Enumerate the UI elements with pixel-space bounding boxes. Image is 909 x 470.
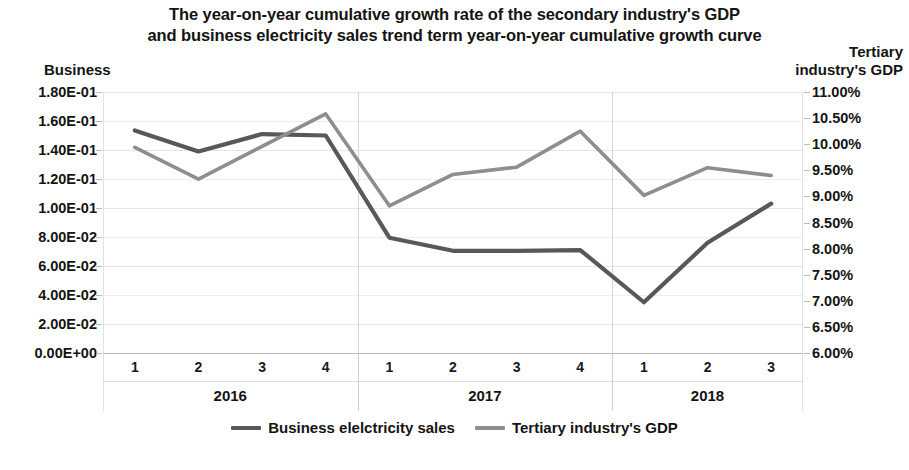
scan-artifact-text (0, 455, 909, 469)
x-axis-quarter-label: 1 (374, 359, 404, 375)
right-axis-tick-label: 10.00% (812, 137, 904, 151)
right-axis-tick-mark (804, 327, 810, 328)
left-axis-tick-mark (96, 324, 102, 325)
left-axis-tick-label: 1.40E-01 (5, 143, 97, 157)
right-axis-tick-label: 7.50% (812, 268, 904, 282)
legend-label: Business elelctricity sales (268, 419, 455, 436)
x-axis-quarter-label: 2 (693, 359, 723, 375)
x-axis-quarter-label: 3 (756, 359, 786, 375)
right-axis-tick-mark (804, 92, 810, 93)
left-axis-tick-label: 2.00E-02 (5, 317, 97, 331)
x-axis-group-divider (358, 353, 359, 411)
right-axis-tick-label: 9.00% (812, 189, 904, 203)
chart-title-line-1: The year-on-year cumulative growth rate … (0, 4, 909, 25)
right-axis-tick-mark (804, 223, 810, 224)
right-axis-tick-mark (804, 275, 810, 276)
x-axis-quarter-label: 3 (247, 359, 277, 375)
left-axis-caption: Business (44, 61, 111, 79)
right-axis-tick-label: 11.00% (812, 85, 904, 99)
chart-container: The year-on-year cumulative growth rate … (0, 0, 909, 470)
left-axis-tick-label: 1.20E-01 (5, 172, 97, 186)
series-line (135, 114, 771, 206)
right-axis-caption: Tertiary industry's GDP (795, 43, 903, 79)
x-axis-quarter-label: 1 (629, 359, 659, 375)
x-axis-quarter-label: 4 (311, 359, 341, 375)
right-axis-tick-label: 10.50% (812, 111, 904, 125)
x-axis: 12342016123420171232018 (103, 353, 803, 411)
left-axis-tick-label: 4.00E-02 (5, 288, 97, 302)
right-axis-caption-line-1: Tertiary (795, 43, 903, 61)
left-axis-tick-mark (96, 92, 102, 93)
x-axis-quarter-label: 2 (438, 359, 468, 375)
x-axis-quarter-label: 4 (565, 359, 595, 375)
right-axis-tick-label: 6.50% (812, 320, 904, 334)
x-axis-year-label: 2016 (190, 387, 270, 404)
legend-line-icon (475, 426, 505, 430)
left-axis-tick-label: 1.60E-01 (5, 114, 97, 128)
right-axis-tick-label: 8.00% (812, 242, 904, 256)
left-axis-tick-mark (96, 237, 102, 238)
left-axis-tick-label: 8.00E-02 (5, 230, 97, 244)
x-axis-border-vertical (802, 353, 803, 411)
plot-area (103, 92, 803, 353)
right-axis-tick-mark (804, 144, 810, 145)
legend-label: Tertiary industry's GDP (512, 419, 678, 436)
x-axis-group-divider (612, 353, 613, 411)
right-axis-tick-mark (804, 118, 810, 119)
left-axis-tick-mark (96, 208, 102, 209)
right-axis-caption-line-2: industry's GDP (795, 61, 903, 79)
chart-title-line-2: and business electricity sales trend ter… (0, 25, 909, 46)
chart-legend: Business elelctricity salesTertiary indu… (0, 419, 909, 436)
right-axis-tick-mark (804, 301, 810, 302)
series-lines (103, 92, 803, 353)
right-axis-tick-mark (804, 249, 810, 250)
x-axis-quarter-label: 3 (502, 359, 532, 375)
left-axis-tick-mark (96, 295, 102, 296)
right-axis-tick-mark (804, 170, 810, 171)
right-axis-tick-label: 7.00% (812, 294, 904, 308)
left-axis-tick-label: 0.00E+00 (5, 346, 97, 360)
right-axis-tick-label: 6.00% (812, 346, 904, 360)
x-axis-quarter-label: 2 (183, 359, 213, 375)
x-axis-line (103, 353, 803, 354)
left-axis-tick-label: 1.00E-01 (5, 201, 97, 215)
left-axis-tick-mark (96, 353, 102, 354)
x-axis-year-label: 2017 (445, 387, 525, 404)
right-axis-tick-label: 9.50% (812, 163, 904, 177)
right-axis-tick-mark (804, 353, 810, 354)
legend-item[interactable]: Tertiary industry's GDP (475, 419, 678, 436)
chart-title: The year-on-year cumulative growth rate … (0, 4, 909, 46)
left-axis-tick-mark (96, 121, 102, 122)
legend-item[interactable]: Business elelctricity sales (231, 419, 455, 436)
x-axis-quarter-label: 1 (120, 359, 150, 375)
right-axis-tick-label: 8.50% (812, 216, 904, 230)
x-axis-border-vertical (103, 353, 104, 411)
left-axis-tick-label: 1.80E-01 (5, 85, 97, 99)
left-axis-tick-mark (96, 179, 102, 180)
left-axis-tick-mark (96, 266, 102, 267)
series-line (135, 130, 771, 302)
legend-line-icon (231, 426, 261, 430)
right-axis-tick-mark (804, 196, 810, 197)
left-axis-tick-mark (96, 150, 102, 151)
left-axis-tick-label: 6.00E-02 (5, 259, 97, 273)
x-axis-inner-divider (103, 381, 803, 382)
x-axis-year-label: 2018 (668, 387, 748, 404)
